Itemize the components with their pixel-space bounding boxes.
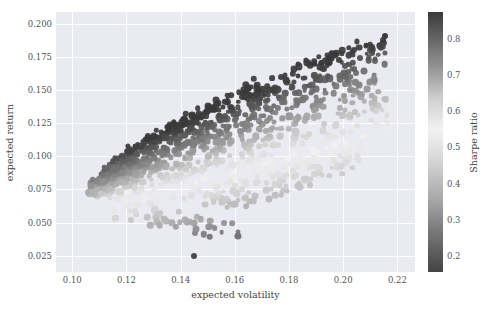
scatter-point [232, 173, 239, 180]
scatter-point [257, 144, 263, 150]
scatter-point [302, 95, 309, 102]
scatter-point [217, 145, 223, 151]
scatter-point [228, 138, 235, 145]
colorbar-label-text: Sharpe ratio [468, 112, 479, 172]
scatter-point [311, 107, 317, 113]
scatter-point [243, 122, 249, 128]
scatter-point [383, 118, 388, 123]
scatter-point [351, 47, 357, 53]
scatter-point [128, 202, 134, 208]
scatter-point [237, 128, 243, 134]
scatter-point [375, 123, 382, 130]
scatter-point [338, 154, 343, 159]
scatter-point [296, 115, 303, 122]
scatter-point [330, 157, 337, 164]
scatter-point [194, 180, 199, 185]
scatter-point [360, 133, 366, 139]
scatter-point [236, 230, 241, 235]
x-tick-label: 0.22 [388, 275, 407, 285]
scatter-point [195, 106, 201, 112]
scatter-point [284, 160, 291, 167]
scatter-point [144, 135, 149, 140]
scatter-point [354, 123, 360, 129]
scatter-point [350, 67, 355, 72]
scatter-point [277, 133, 284, 140]
scatter-point [128, 217, 134, 223]
scatter-point [262, 142, 267, 147]
scatter-point [377, 42, 382, 47]
scatter-point [363, 86, 370, 93]
scatter-point [227, 104, 233, 110]
scatter-point [213, 96, 220, 103]
y-tick-label: 0.075 [28, 184, 52, 194]
scatter-point [330, 90, 337, 97]
scatter-point [138, 143, 145, 150]
scatter-point [181, 217, 188, 224]
scatter-point [309, 81, 316, 88]
scatter-point [327, 135, 332, 140]
colorbar [428, 12, 443, 272]
scatter-point [182, 155, 187, 160]
scatter-point [256, 156, 262, 162]
colorbar-gradient [428, 12, 443, 272]
scatter-point [125, 195, 130, 200]
scatter-point [221, 189, 226, 194]
scatter-point [306, 131, 312, 137]
scatter-point [322, 139, 328, 145]
scatter-point [289, 86, 294, 91]
scatter-point [333, 83, 340, 90]
scatter-point [202, 201, 209, 208]
scatter-point [311, 156, 318, 163]
scatter-point [382, 50, 387, 55]
scatter-point [114, 215, 119, 220]
scatter-point [252, 192, 259, 199]
scatter-point [227, 153, 233, 159]
scatter-point [141, 151, 146, 156]
scatter-point [322, 87, 327, 92]
scatter-point [150, 133, 157, 140]
scatter-point [146, 201, 151, 206]
scatter-point [272, 192, 278, 198]
scatter-point [239, 162, 246, 169]
scatter-point [353, 145, 358, 150]
scatter-point [340, 128, 347, 135]
scatter-point [134, 201, 141, 208]
scatter-point [294, 173, 300, 179]
scatter-point [169, 193, 174, 198]
scatter-point [197, 216, 203, 222]
scatter-point [266, 137, 271, 142]
scatter-point [282, 73, 287, 78]
scatter-point [352, 109, 358, 115]
scatter-point [354, 154, 361, 161]
scatter-point [175, 146, 180, 151]
scatter-point [263, 104, 269, 110]
scatter-point [319, 173, 324, 178]
scatter-point [281, 178, 287, 184]
scatter-point [264, 180, 270, 186]
scatter-point [163, 136, 168, 141]
scatter-point [251, 137, 257, 143]
scatter-chart-figure: 0.0250.0500.0750.1000.1250.1500.1750.200… [0, 0, 484, 319]
x-tick-label: 0.18 [280, 275, 299, 285]
scatter-point [187, 155, 193, 161]
scatter-point [219, 230, 224, 235]
scatter-point [325, 73, 331, 79]
scatter-point [258, 114, 263, 119]
scatter-point [140, 161, 145, 166]
scatter-point [257, 96, 263, 102]
scatter-point [148, 169, 154, 175]
scatter-point [327, 173, 332, 178]
scatter-point [342, 107, 347, 112]
scatter-point [292, 130, 299, 137]
scatter-point [246, 157, 253, 164]
y-tick-label: 0.100 [28, 151, 52, 161]
scatter-point [248, 85, 253, 90]
colorbar-tick-label: 0.2 [447, 251, 461, 261]
scatter-point [192, 226, 199, 233]
scatter-point [302, 76, 307, 81]
colorbar-tick-label: 0.6 [447, 106, 461, 116]
scatter-point [112, 209, 117, 214]
y-axis-label: expected return [4, 12, 16, 272]
scatter-point [211, 199, 217, 205]
scatter-point [225, 96, 230, 101]
